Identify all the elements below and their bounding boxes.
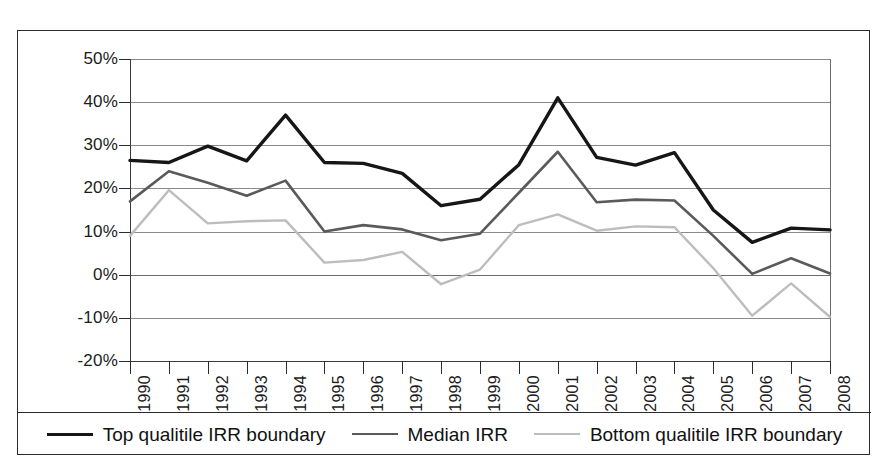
chart-legend: Top qualitile IRR boundaryMedian IRRBott… — [18, 412, 871, 455]
legend-label: Top qualitile IRR boundary — [103, 425, 326, 444]
legend-label: Bottom qualitile IRR boundary — [590, 425, 842, 444]
chart-frame: 50%40%30%20%10%0%-10%-20% 19901991199219… — [17, 30, 870, 455]
series-line — [130, 190, 830, 317]
legend-line-swatch — [352, 433, 398, 435]
series-line — [130, 152, 830, 274]
legend-item: Bottom qualitile IRR boundary — [534, 425, 842, 444]
legend-item: Top qualitile IRR boundary — [47, 425, 326, 444]
legend-item: Median IRR — [352, 425, 508, 444]
legend-label: Median IRR — [408, 425, 508, 444]
legend-line-swatch — [47, 433, 93, 436]
chart-series-layer — [18, 31, 871, 456]
chart-page: 50%40%30%20%10%0%-10%-20% 19901991199219… — [0, 0, 888, 474]
legend-line-swatch — [534, 433, 580, 435]
